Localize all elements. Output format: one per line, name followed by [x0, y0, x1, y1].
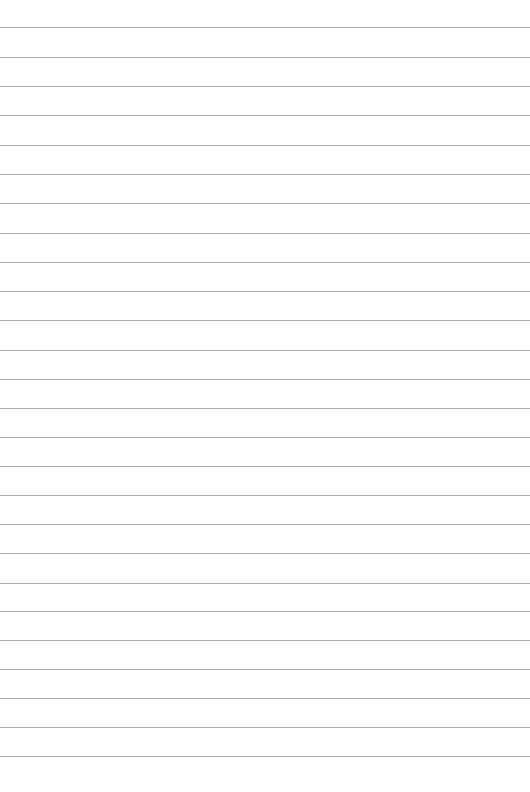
ruled-line: [0, 437, 530, 438]
ruled-line: [0, 379, 530, 380]
ruled-line: [0, 495, 530, 496]
ruled-line: [0, 233, 530, 234]
lined-paper-page: [0, 0, 530, 792]
ruled-line: [0, 698, 530, 699]
ruled-line: [0, 756, 530, 757]
ruled-line: [0, 640, 530, 641]
ruled-line: [0, 27, 530, 28]
ruled-line: [0, 203, 530, 204]
ruled-line: [0, 86, 530, 87]
ruled-line: [0, 174, 530, 175]
ruled-line: [0, 320, 530, 321]
ruled-line: [0, 408, 530, 409]
ruled-line: [0, 583, 530, 584]
ruled-line: [0, 466, 530, 467]
ruled-line: [0, 350, 530, 351]
ruled-line: [0, 291, 530, 292]
ruled-line: [0, 553, 530, 554]
ruled-line: [0, 145, 530, 146]
ruled-line: [0, 115, 530, 116]
ruled-line: [0, 611, 530, 612]
ruled-line: [0, 57, 530, 58]
ruled-line: [0, 262, 530, 263]
ruled-line: [0, 669, 530, 670]
ruled-line: [0, 727, 530, 728]
ruled-line: [0, 524, 530, 525]
